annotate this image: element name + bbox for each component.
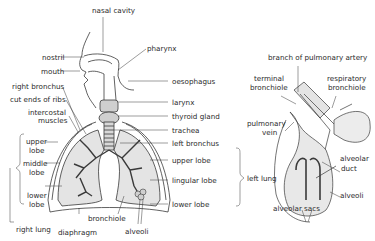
label-middle-lobe-2: lobe xyxy=(29,169,44,176)
label-upper-lobe-right-1: upper xyxy=(26,138,47,145)
label-middle-lobe-1: middle xyxy=(23,160,48,167)
label-thyroid-gland: thyroid gland xyxy=(172,113,220,120)
label-pharynx: pharynx xyxy=(147,45,177,52)
label-cut-ends-of-ribs: cut ends of ribs xyxy=(10,96,66,103)
label-nasal-cavity: nasal cavity xyxy=(92,7,135,14)
label-right-bronchus: right bronchus xyxy=(12,83,64,90)
label-lower-lobe-right-1: lower xyxy=(27,192,47,199)
label-pulmonary-vein-1: pulmonary xyxy=(247,120,286,127)
label-branch-of-pulmonary-artery: branch of pulmonary artery xyxy=(268,54,367,61)
label-upper-lobe-right-2: lobe xyxy=(29,147,44,154)
label-alveolar-duct-1: alveolar xyxy=(340,155,369,162)
label-alveolar-sacs: alveolar sacs xyxy=(273,205,320,212)
label-respiratory-bronchiole-2: bronchiole xyxy=(328,84,366,91)
label-left-bronchus: left bronchus xyxy=(172,140,219,147)
label-respiratory-bronchiole-1: respiratory xyxy=(327,75,366,82)
label-terminal-bronchiole-1: terminal xyxy=(254,75,284,82)
larynx-shape xyxy=(99,100,119,124)
trachea-shape xyxy=(104,122,114,150)
label-alveolar-duct-2: duct xyxy=(341,165,357,172)
label-alveoli-left: alveoli xyxy=(125,228,148,235)
label-bronchiole: bronchiole xyxy=(88,215,126,222)
label-lingular-lobe: lingular lobe xyxy=(172,177,217,184)
label-nostril: nostril xyxy=(42,54,64,61)
nasal-passage xyxy=(84,54,134,90)
label-alveoli-right: alveoli xyxy=(340,192,363,199)
label-right-lung: right lung xyxy=(16,226,51,233)
label-trachea: trachea xyxy=(172,127,200,134)
label-oesophagus: oesophagus xyxy=(172,78,215,85)
label-diaphragm: diaphragm xyxy=(58,229,97,236)
label-terminal-bronchiole-2: bronchiole xyxy=(250,84,288,91)
alveolus-drawing xyxy=(274,82,370,222)
label-intercostal-2: muscles xyxy=(38,117,67,124)
label-lower-lobe-left: lower lobe xyxy=(172,201,209,208)
label-larynx: larynx xyxy=(172,99,194,106)
head-profile xyxy=(80,32,96,108)
label-mouth: mouth xyxy=(41,68,64,75)
label-upper-lobe-left: upper lobe xyxy=(172,157,211,164)
diaphragm-line xyxy=(50,208,168,213)
label-left-lung: left lung xyxy=(247,175,277,182)
label-lower-lobe-right-2: lobe xyxy=(29,201,44,208)
label-pulmonary-vein-2: vein xyxy=(262,129,277,136)
